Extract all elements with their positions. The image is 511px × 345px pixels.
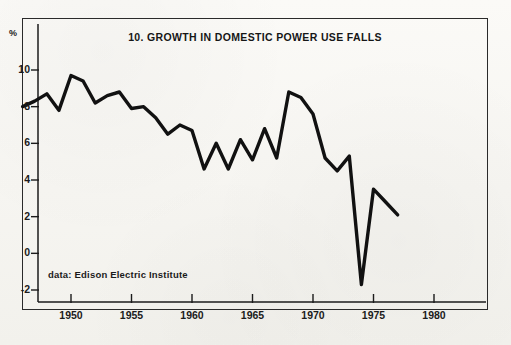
x-tick-label: 1965 [228,309,278,321]
x-tick-label: 1950 [46,309,96,321]
y-axis-tick-marks [31,24,39,302]
data-line-growth-in-domestic-power-use [23,76,398,285]
chart-page: % 10. GROWTH IN DOMESTIC POWER USE FALLS… [0,0,511,345]
y-tick-label: 0 [0,246,30,258]
x-tick-label: 1955 [107,309,157,321]
y-tick-label: -2 [0,283,30,295]
y-tick-label: 6 [0,136,30,148]
x-tick-label: 1970 [288,309,338,321]
x-tick-label: 1975 [349,309,399,321]
x-tick-label: 1980 [409,309,459,321]
y-tick-label: 4 [0,173,30,185]
chart-plot-area [0,0,511,345]
y-tick-label: 8 [0,100,30,112]
x-tick-label: 1960 [167,309,217,321]
data-series-group [23,76,398,285]
x-axis-tick-marks [38,294,486,303]
y-tick-label: 10 [0,63,30,75]
y-tick-label: 2 [0,210,30,222]
